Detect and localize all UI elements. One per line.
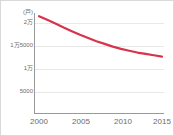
x-axis-line <box>34 113 164 114</box>
x-tick-label-2005: 2005 <box>72 117 90 127</box>
x-tick-label-2010: 2010 <box>114 117 132 127</box>
y-axis-labels: (戸) 2万 1万5000 1万 5000 <box>1 1 33 136</box>
x-tick-label-2000: 2000 <box>30 117 48 127</box>
chart-container: (戸) 2万 1万5000 1万 5000 2000 2005 2010 201… <box>0 0 174 136</box>
x-tick-label-2015: 2015 <box>153 117 171 127</box>
y-tick-label-5000: 5000 <box>20 88 33 95</box>
y-tick-label-20000: 2万 <box>24 19 33 26</box>
y-tick-label-15000: 1万5000 <box>10 42 33 49</box>
data-series-line <box>34 13 164 113</box>
y-axis-unit-label: (戸) <box>23 9 33 16</box>
y-tick-label-10000: 1万 <box>24 65 33 72</box>
